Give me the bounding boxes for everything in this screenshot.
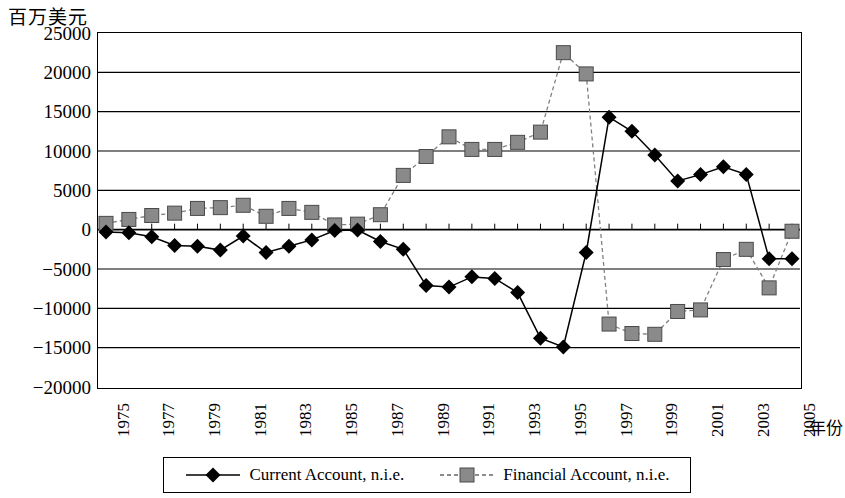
x-axis-tick-label: 1989 [434,403,454,437]
x-axis-tick-label: 1991 [479,403,499,437]
x-axis-tick-label: 1987 [388,403,408,437]
x-axis-tick-label: 1977 [159,403,179,437]
x-axis-tick-label: 1975 [114,403,134,437]
x-axis-tick-label: 1995 [571,403,591,437]
x-axis-tick-label: 2001 [708,403,728,437]
x-axis-title: 年份 [809,414,843,439]
x-axis-tick-label: 1997 [617,403,637,437]
plot-canvas [98,33,800,387]
x-axis-tick-label: 1999 [662,403,682,437]
x-axis-tick-label: 1985 [342,403,362,437]
legend-label-financial-account: Financial Account, n.i.e. [503,465,669,485]
series-financial-account [99,46,799,342]
x-axis-tick-label: 1981 [251,403,271,437]
legend-item-financial-account: Financial Account, n.i.e. [438,465,669,485]
legend-label-current-account: Current Account, n.i.e. [249,465,404,485]
plot-area [97,32,802,389]
x-axis-tick-label: 1979 [205,403,225,437]
legend-key-financial-account [438,465,496,485]
chart-figure: 百万美元 2500020000150001000050000−5000−1000… [0,0,845,498]
legend-key-current-account [184,465,242,485]
legend-item-current-account: Current Account, n.i.e. [184,465,404,485]
x-axis-tick-label: 2003 [754,403,774,437]
series-current-account [99,110,800,355]
chart-legend: Current Account, n.i.e. Financial Accoun… [163,457,691,493]
x-axis-tick-label: 1983 [296,403,316,437]
x-axis-tick-label: 1993 [525,403,545,437]
